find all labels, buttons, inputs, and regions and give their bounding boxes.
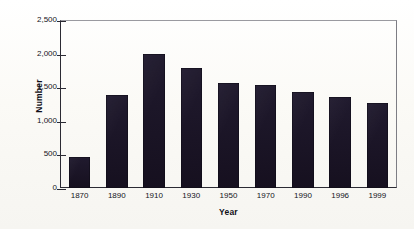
y-axis-tick-labels: 05001,0001,5002,0002,500	[24, 12, 57, 192]
x-tick-label: 1910	[135, 191, 172, 201]
bar[interactable]	[69, 157, 90, 188]
x-tick-label: 1996	[322, 191, 359, 201]
x-tick-label: 1970	[247, 191, 284, 201]
bar-slot	[218, 20, 239, 188]
bar-slot	[143, 20, 164, 188]
bar-slot	[106, 20, 127, 188]
bar[interactable]	[218, 83, 239, 188]
bar[interactable]	[181, 68, 202, 188]
bar-slot	[255, 20, 276, 188]
x-axis-tick-labels: 187018901910193019501970199019961999	[61, 191, 396, 205]
y-tick-label: 2,000	[24, 50, 57, 58]
bar[interactable]	[143, 54, 164, 188]
bar[interactable]	[329, 97, 350, 188]
bar-slot	[329, 20, 350, 188]
bar[interactable]	[255, 85, 276, 188]
x-tick-label: 1930	[173, 191, 210, 201]
bar[interactable]	[292, 92, 313, 188]
bar-slot	[181, 20, 202, 188]
bar[interactable]	[106, 95, 127, 188]
bar-chart-figure: Number 05001,0001,5002,0002,500 18701890…	[0, 0, 414, 229]
bars-layer	[61, 20, 396, 188]
y-tick-label: 2,500	[24, 16, 57, 24]
y-tick-label: 1,000	[24, 117, 57, 125]
x-tick-label: 1999	[359, 191, 396, 201]
x-tick-label: 1870	[61, 191, 98, 201]
bar[interactable]	[367, 103, 388, 188]
x-axis-title: Year	[61, 207, 396, 217]
y-tick-label: 1,500	[24, 83, 57, 91]
x-tick-label: 1950	[210, 191, 247, 201]
bar-slot	[292, 20, 313, 188]
x-tick-label: 1890	[98, 191, 135, 201]
bar-slot	[367, 20, 388, 188]
y-tick-label: 500	[24, 150, 57, 158]
x-tick-label: 1990	[284, 191, 321, 201]
y-tick-label: 0	[24, 184, 57, 192]
y-tick-mark	[57, 189, 66, 190]
bar-slot	[69, 20, 90, 188]
